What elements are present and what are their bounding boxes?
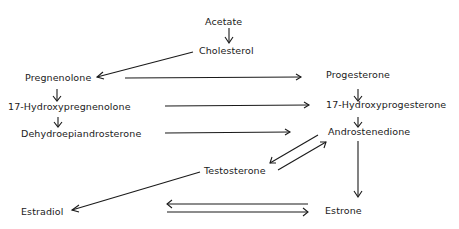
arrow-androstenedione-testosterone xyxy=(270,135,318,163)
arrow-layer xyxy=(0,0,459,229)
node-pregnenolone: Pregnenolone xyxy=(25,72,91,83)
arrow-estradiol-estrone xyxy=(167,208,308,216)
node-17-hydroxyprogesterone: 17-Hydroxyprogesterone xyxy=(326,99,446,110)
arrow-androstenedione-estrone xyxy=(354,141,362,197)
arrow-estrone-estradiol xyxy=(167,200,308,208)
node-estrone: Estrone xyxy=(325,205,362,216)
arrow-hydroxypregnenolone-hydroxyprogesterone xyxy=(165,102,309,108)
node-acetate: Acetate xyxy=(205,16,242,27)
node-testosterone: Testosterone xyxy=(204,165,266,176)
node-dehydroepiandrosterone: Dehydroepiandrosterone xyxy=(21,128,141,139)
arrow-pregnenolone-progesterone xyxy=(125,74,301,80)
arrow-acetate-cholesterol xyxy=(225,28,233,43)
node-17-hydroxypregnenolone: 17-Hydroxypregnenolone xyxy=(8,101,131,112)
arrow-dhea-androstenedione xyxy=(165,129,290,135)
pathway-diagram: Acetate Cholesterol Pregnenolone 17-Hydr… xyxy=(0,0,459,229)
node-progesterone: Progesterone xyxy=(326,69,390,80)
arrow-hydroxypregnenolone-dhea xyxy=(54,117,62,127)
arrow-testosterone-estradiol xyxy=(72,172,200,212)
arrow-testosterone-androstenedione xyxy=(278,142,326,170)
arrow-pregnenolone-hydroxypregnenolone xyxy=(53,89,61,101)
node-androstenedione: Androstenedione xyxy=(328,126,410,137)
arrow-cholesterol-pregnenolone xyxy=(97,52,193,79)
node-estradiol: Estradiol xyxy=(21,206,63,217)
node-cholesterol: Cholesterol xyxy=(199,45,254,56)
